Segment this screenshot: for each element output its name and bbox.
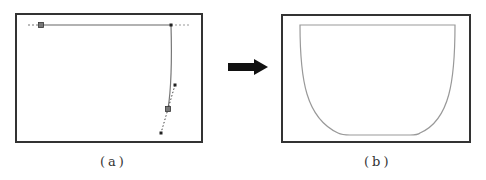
panel-b-frame	[282, 15, 470, 142]
arrow-right-icon	[228, 59, 268, 75]
anchor-point[interactable]	[166, 107, 171, 112]
caption-a: (a)	[100, 154, 127, 169]
bowl-outline	[300, 25, 455, 135]
anchor-point[interactable]	[39, 23, 44, 28]
anchor-points[interactable]	[39, 23, 171, 112]
handle-point[interactable]	[170, 24, 173, 27]
handle-point[interactable]	[174, 84, 177, 87]
panel-a-frame	[16, 14, 202, 142]
handle-point[interactable]	[160, 132, 163, 135]
handle-points[interactable]	[160, 24, 177, 135]
figure-canvas	[0, 0, 486, 180]
caption-b: (b)	[364, 154, 391, 169]
profile-curve	[168, 25, 171, 109]
panel-b	[282, 15, 470, 142]
panel-a	[16, 14, 202, 142]
